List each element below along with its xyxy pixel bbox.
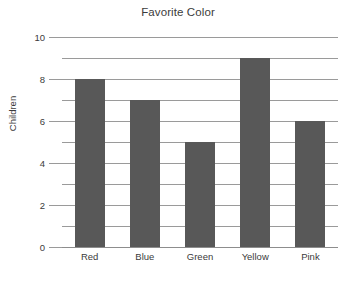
y-axis-tick <box>49 247 62 248</box>
x-axis-tick-label: Red <box>81 251 98 262</box>
bar-pink <box>295 121 325 247</box>
x-axis-tick-label: Pink <box>301 251 319 262</box>
y-axis-tick <box>49 121 62 122</box>
gridline <box>62 247 338 248</box>
x-axis-tick-label: Yellow <box>242 251 269 262</box>
y-axis-tick-label: 8 <box>40 74 45 85</box>
bar-blue <box>130 100 160 247</box>
y-axis-tick <box>49 163 62 164</box>
bar-yellow <box>240 58 270 247</box>
bar-chart-figure: Favorite Color Children 0246810RedBlueGr… <box>0 0 356 281</box>
y-axis-tick <box>49 37 62 38</box>
x-axis-tick-label: Blue <box>135 251 154 262</box>
x-axis-tick-label: Green <box>187 251 213 262</box>
y-axis-tick-label: 4 <box>40 158 45 169</box>
y-axis-tick-label: 0 <box>40 242 45 253</box>
y-axis-tick-label: 6 <box>40 116 45 127</box>
bar-red <box>75 79 105 247</box>
gridline <box>62 58 338 59</box>
plot-area: 0246810RedBlueGreenYellowPink <box>62 37 338 247</box>
bar-green <box>185 142 215 247</box>
gridline <box>62 37 338 38</box>
y-axis-tick-label: 2 <box>40 200 45 211</box>
y-axis-tick-label: 10 <box>34 32 45 43</box>
y-axis-tick <box>49 79 62 80</box>
chart-title: Favorite Color <box>0 6 356 18</box>
y-axis-tick <box>49 205 62 206</box>
y-axis-title: Children <box>7 78 18 150</box>
